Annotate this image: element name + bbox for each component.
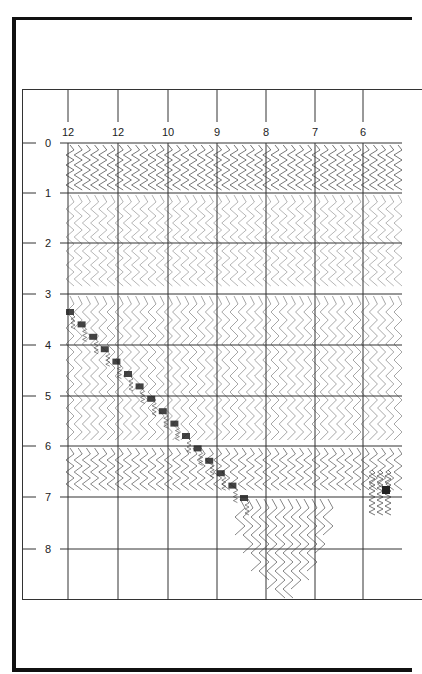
column-label: 8	[263, 126, 269, 138]
column-label: 12	[62, 126, 74, 138]
row-label: 7	[45, 491, 51, 503]
row-label: 4	[45, 339, 51, 351]
column-label: 9	[214, 126, 220, 138]
column-label: 7	[312, 126, 318, 138]
row-label: 1	[45, 187, 51, 199]
column-label: 12	[112, 126, 124, 138]
row-label: 8	[45, 543, 51, 555]
row-label: 3	[45, 288, 51, 300]
column-label: 10	[162, 126, 174, 138]
row-label: 5	[45, 390, 51, 402]
row-label: 2	[45, 237, 51, 249]
row-label: 0	[45, 137, 51, 149]
column-label: 6	[360, 126, 366, 138]
row-label: 6	[45, 440, 51, 452]
